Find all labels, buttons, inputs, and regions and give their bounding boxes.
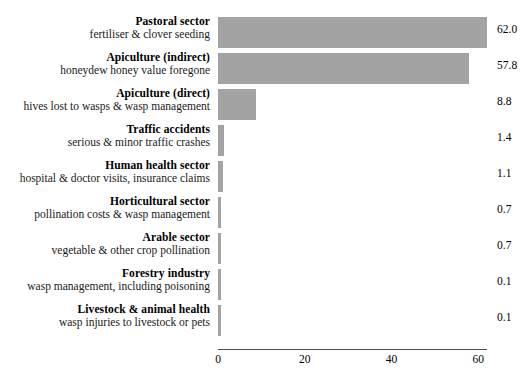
chart-row: Livestock & animal healthwasp injuries t… (0, 303, 532, 339)
category-title: Apiculture (direct) (0, 87, 210, 100)
chart-plot-area: Pastoral sectorfertiliser & clover seedi… (0, 0, 532, 349)
x-tick-label: 20 (299, 353, 311, 365)
bar (218, 125, 224, 156)
category-title: Pastoral sector (0, 15, 210, 28)
category-title: Human health sector (0, 159, 210, 172)
category-title: Horticultural sector (0, 195, 210, 208)
chart-row: Human health sectorhospital & doctor vis… (0, 159, 532, 195)
bar (218, 305, 221, 336)
x-axis-line (218, 349, 487, 350)
bar-value-label: 0.7 (497, 239, 511, 251)
bar-value-label: 1.1 (497, 167, 511, 179)
category-subtitle: hospital & doctor visits, insurance clai… (0, 172, 210, 185)
bar-value-label: 0.1 (497, 311, 511, 323)
category-subtitle: wasp management, including poisoning (0, 280, 210, 293)
bar (218, 233, 221, 264)
bar-value-label: 62.0 (497, 23, 517, 35)
bar (218, 89, 256, 120)
category-label: Pastoral sectorfertiliser & clover seedi… (0, 15, 210, 41)
category-subtitle: pollination costs & wasp management (0, 208, 210, 221)
bar (218, 161, 223, 192)
category-label: Arable sectorvegetable & other crop poll… (0, 231, 210, 257)
bar (218, 197, 221, 228)
category-title: Arable sector (0, 231, 210, 244)
bar-value-label: 1.4 (497, 131, 511, 143)
category-label: Horticultural sectorpollination costs & … (0, 195, 210, 221)
bar (218, 53, 469, 84)
chart-row: Pastoral sectorfertiliser & clover seedi… (0, 15, 532, 51)
chart-row: Horticultural sectorpollination costs & … (0, 195, 532, 231)
x-axis-tick-labels: 0204060 (0, 353, 532, 373)
category-subtitle: honeydew honey value foregone (0, 64, 210, 77)
bar-value-label: 0.7 (497, 203, 511, 215)
category-title: Livestock & animal health (0, 303, 210, 316)
bar-value-label: 8.8 (497, 95, 511, 107)
category-subtitle: wasp injuries to livestock or pets (0, 316, 210, 329)
category-label: Apiculture (indirect)honeydew honey valu… (0, 51, 210, 77)
category-label: Human health sectorhospital & doctor vis… (0, 159, 210, 185)
bar-value-label: 0.1 (497, 275, 511, 287)
category-subtitle: fertiliser & clover seeding (0, 28, 210, 41)
category-label: Livestock & animal healthwasp injuries t… (0, 303, 210, 329)
chart-row: Arable sectorvegetable & other crop poll… (0, 231, 532, 267)
category-label: Apiculture (direct)hives lost to wasps &… (0, 87, 210, 113)
category-subtitle: vegetable & other crop pollination (0, 244, 210, 257)
bar-chart: Pastoral sectorfertiliser & clover seedi… (0, 0, 532, 392)
category-label: Forestry industrywasp management, includ… (0, 267, 210, 293)
category-subtitle: serious & minor traffic crashes (0, 136, 210, 149)
chart-row: Traffic accidentsserious & minor traffic… (0, 123, 532, 159)
category-title: Apiculture (indirect) (0, 51, 210, 64)
category-label: Traffic accidentsserious & minor traffic… (0, 123, 210, 149)
x-tick-label: 0 (215, 353, 221, 365)
bar (218, 17, 487, 48)
chart-row: Apiculture (indirect)honeydew honey valu… (0, 51, 532, 87)
chart-row: Apiculture (direct)hives lost to wasps &… (0, 87, 532, 123)
category-subtitle: hives lost to wasps & wasp management (0, 100, 210, 113)
bar-value-label: 57.8 (497, 59, 517, 71)
chart-row: Forestry industrywasp management, includ… (0, 267, 532, 303)
bar (218, 269, 221, 300)
x-tick-label: 60 (473, 353, 485, 365)
x-tick-label: 40 (386, 353, 398, 365)
category-title: Traffic accidents (0, 123, 210, 136)
category-title: Forestry industry (0, 267, 210, 280)
